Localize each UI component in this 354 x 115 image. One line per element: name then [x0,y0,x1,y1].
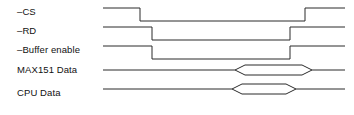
timing-diagram: –CS –RD –Buffer enable MAX151 Data CPU D… [0,0,354,115]
waveform-buffer-enable [103,46,345,59]
waveform-layer [0,0,354,115]
waveform-cs [103,8,345,21]
bus-valid-max151-data [235,65,312,75]
waveform-rd [103,27,345,40]
bus-valid-cpu-data [232,84,296,94]
